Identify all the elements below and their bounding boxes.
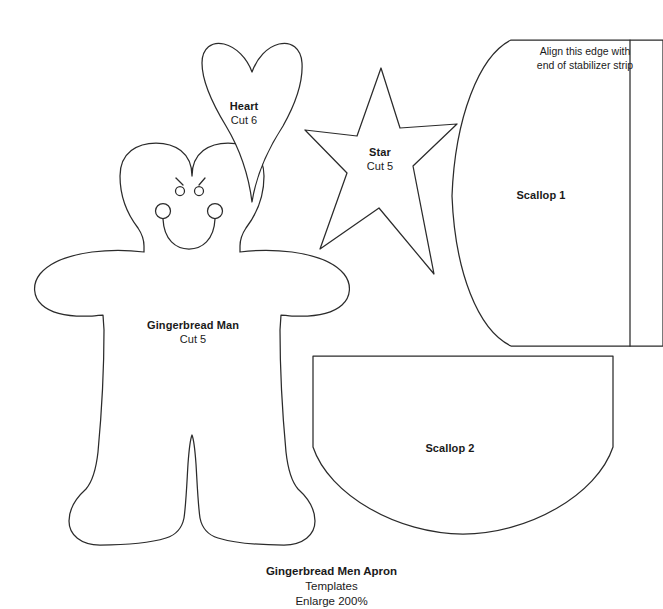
caption-enlarge: Enlarge 200% xyxy=(0,594,663,609)
scallop-2-label: Scallop 2 xyxy=(400,441,500,455)
scallop-2-title: Scallop 2 xyxy=(400,441,500,455)
right-eye-icon xyxy=(195,187,204,196)
scallop-1-label: Scallop 1 xyxy=(491,188,591,202)
gingerbread-man-label: Gingerbread Man Cut 5 xyxy=(113,318,273,346)
scallop-1-title: Scallop 1 xyxy=(491,188,591,202)
heart-label: Heart Cut 6 xyxy=(194,99,294,127)
star-title: Star xyxy=(330,145,430,159)
gingerbread-man-title: Gingerbread Man xyxy=(113,318,273,332)
sheet-caption: Gingerbread Men Apron Templates Enlarge … xyxy=(0,564,663,609)
align-note-line-1: Align this edge with xyxy=(515,44,655,58)
right-cheek-icon xyxy=(208,204,223,219)
star-cut: Cut 5 xyxy=(330,159,430,173)
caption-title: Gingerbread Men Apron xyxy=(0,564,663,579)
align-edge-note: Align this edge with end of stabilizer s… xyxy=(515,44,655,72)
star-label: Star Cut 5 xyxy=(330,145,430,173)
left-eye-icon xyxy=(176,187,185,196)
left-cheek-icon xyxy=(156,204,171,219)
heart-title: Heart xyxy=(194,99,294,113)
align-note-line-2: end of stabilizer strip xyxy=(515,58,655,72)
gingerbread-man-cut: Cut 5 xyxy=(113,332,273,346)
caption-subtitle: Templates xyxy=(0,579,663,594)
heart-cut: Cut 6 xyxy=(194,113,294,127)
